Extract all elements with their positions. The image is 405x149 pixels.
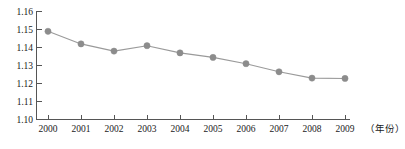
y-tick-label-2: 1.12 bbox=[16, 79, 33, 89]
data-point-2003 bbox=[144, 43, 150, 49]
x-axis-ticks bbox=[49, 115, 346, 120]
y-tick-label-5: 1.15 bbox=[16, 25, 33, 35]
data-point-2005 bbox=[210, 54, 216, 60]
data-point-2008 bbox=[309, 75, 315, 81]
y-tick-label-6: 1.16 bbox=[16, 7, 33, 17]
x-tick-label-9: 2009 bbox=[336, 124, 355, 134]
data-point-2000 bbox=[45, 28, 51, 34]
x-tick-label-7: 2007 bbox=[270, 124, 289, 134]
y-tick-label-3: 1.13 bbox=[16, 61, 33, 71]
chart-container: 1.16 1.15 1.14 1.13 1.12 1.11 1.10 2000 … bbox=[0, 0, 405, 149]
line-chart: 1.16 1.15 1.14 1.13 1.12 1.11 1.10 2000 … bbox=[0, 0, 405, 149]
data-point-2006 bbox=[243, 61, 249, 67]
x-tick-label-0: 2000 bbox=[39, 124, 58, 134]
data-point-2007 bbox=[276, 69, 282, 75]
data-point-2009 bbox=[342, 75, 348, 81]
x-tick-label-1: 2001 bbox=[72, 124, 91, 134]
y-tick-label-1: 1.11 bbox=[17, 97, 34, 107]
data-point-2004 bbox=[177, 50, 183, 56]
data-point-2001 bbox=[78, 41, 84, 47]
x-axis-tick-labels: 2000 2001 2002 2003 2004 2005 2006 2007 … bbox=[39, 124, 355, 134]
x-tick-label-6: 2006 bbox=[237, 124, 256, 134]
x-axis-label: （年份） bbox=[365, 123, 405, 134]
x-tick-label-5: 2005 bbox=[204, 124, 223, 134]
data-point-2002 bbox=[111, 48, 117, 54]
y-axis-ticks bbox=[37, 12, 42, 120]
x-tick-label-8: 2008 bbox=[303, 124, 322, 134]
series-line bbox=[48, 31, 345, 78]
x-tick-label-4: 2004 bbox=[171, 124, 190, 134]
x-tick-label-3: 2003 bbox=[138, 124, 157, 134]
y-axis-tick-labels: 1.16 1.15 1.14 1.13 1.12 1.11 1.10 bbox=[16, 7, 33, 125]
y-tick-label-0: 1.10 bbox=[16, 115, 33, 125]
y-tick-label-4: 1.14 bbox=[16, 43, 33, 53]
x-tick-label-2: 2002 bbox=[105, 124, 124, 134]
